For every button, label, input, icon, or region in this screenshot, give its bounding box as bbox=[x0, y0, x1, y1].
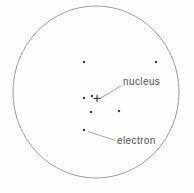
nucleus-leader-line bbox=[100, 86, 122, 99]
atom-boundary-circle bbox=[13, 6, 179, 178]
nucleus-label: nucleus bbox=[123, 76, 160, 87]
electron-dot bbox=[91, 95, 93, 97]
atom-diagram: nucleus electron bbox=[0, 0, 194, 193]
electron-label: electron bbox=[117, 135, 156, 146]
electron-leader-line bbox=[88, 132, 116, 141]
electron-dots bbox=[83, 61, 157, 131]
electron-dot bbox=[155, 61, 157, 63]
electron-dot bbox=[83, 61, 85, 63]
nucleus-plus-marker bbox=[94, 95, 101, 102]
electron-dot bbox=[83, 97, 85, 99]
electron-dot bbox=[118, 110, 120, 112]
atom-diagram-canvas bbox=[0, 0, 194, 193]
electron-dot bbox=[83, 129, 85, 131]
electron-dot bbox=[90, 111, 92, 113]
